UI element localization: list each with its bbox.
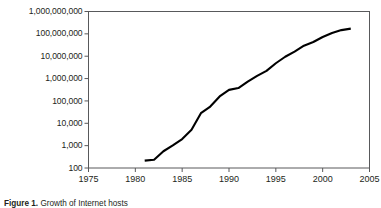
y-tick-label: 100 [68,164,82,173]
x-tick-label: 2005 [350,175,381,184]
x-tick-label: 1995 [256,175,296,184]
figure-container: 1001,00010,000100,0001,000,00010,000,000… [0,0,381,208]
y-tick-label: 100,000 [52,97,82,106]
x-tick-label: 1990 [209,175,249,184]
y-tick-label: 10,000,000 [40,52,82,61]
x-tick-label: 2000 [303,175,343,184]
figure-caption-number: Figure 1. [4,199,38,208]
figure-caption-body: Growth of Internet hosts [40,199,127,208]
x-tick-label: 1980 [115,175,155,184]
x-tick-label: 1975 [69,175,109,184]
y-tick-label: 1,000 [61,141,82,150]
y-tick-label: 100,000,000 [36,29,83,38]
x-tick-label: 1985 [162,175,202,184]
x-axis-ticks [89,168,370,172]
y-tick-label: 1,000,000,000 [29,7,83,16]
y-tick-label: 1,000,000 [45,74,82,83]
figure-caption: Figure 1. Growth of Internet hosts [4,199,381,208]
y-tick-label: 10,000 [57,119,83,128]
y-axis-ticks [85,12,89,169]
